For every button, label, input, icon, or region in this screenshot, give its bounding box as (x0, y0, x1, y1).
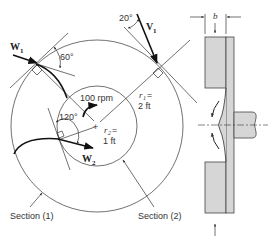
r1-equals: = (147, 90, 152, 100)
inlet-radius-line (58, 127, 95, 140)
angle-label-60: 60° (60, 52, 74, 62)
blade-curve-lower (14, 139, 60, 154)
flow-arrow-upper (212, 101, 219, 117)
angle-label-20: 20° (119, 13, 133, 23)
w2-label: W (82, 153, 92, 164)
side-view: b (190, 11, 268, 236)
tangent-line-right (124, 27, 197, 103)
impeller-diagram: + 20° V 1 W 1 60° (0, 0, 275, 242)
section2-label: Section (2) (138, 211, 182, 221)
w1-label: W (10, 41, 20, 52)
w2-subscript: 2 (92, 159, 96, 167)
width-label-b: b (213, 11, 218, 21)
top-view: + 20° V 1 W 1 60° (10, 13, 197, 221)
radius-extension (177, 40, 190, 52)
radius-line-r1 (100, 52, 177, 122)
r2-value: 1 ft (103, 136, 116, 146)
rotation-arrow (83, 105, 97, 117)
section1-leader (30, 193, 42, 207)
section2-leader (123, 160, 154, 207)
r1-value: 2 ft (138, 101, 151, 111)
rotation-label: 100 rpm (80, 93, 113, 103)
lower-shroud-block (205, 162, 226, 213)
section1-label: Section (1) (10, 211, 54, 221)
v1-subscript: 1 (153, 27, 157, 35)
center-marker: + (93, 122, 98, 132)
w2-arrow (58, 139, 93, 148)
w1-arrow (13, 55, 37, 63)
flow-arrow-lower (212, 133, 219, 149)
angle-label-120: 120° (59, 112, 78, 122)
r2-equals: = (112, 125, 117, 135)
w1-subscript: 1 (20, 47, 24, 55)
upper-shroud-block (205, 37, 226, 88)
blade-tangent-60 (37, 64, 75, 76)
